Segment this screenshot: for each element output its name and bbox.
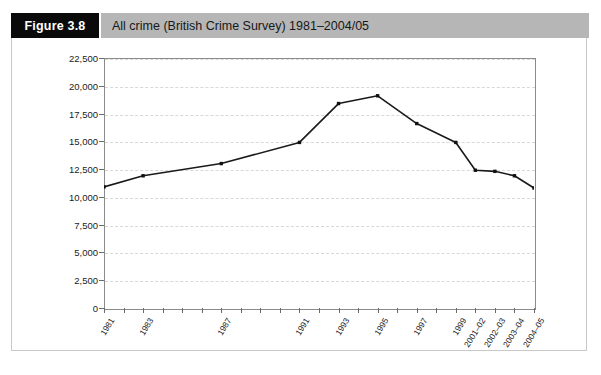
- x-axis-tick-mark: [143, 308, 144, 313]
- x-axis-tick-mark: [163, 308, 164, 313]
- x-axis-tick-mark: [534, 308, 535, 313]
- x-axis-tick-mark: [339, 308, 340, 313]
- x-axis-tick-mark: [378, 308, 379, 313]
- x-axis-tick-mark: [456, 308, 457, 313]
- x-axis-tick-mark: [475, 308, 476, 313]
- y-axis-tick-label: 22,500: [69, 53, 98, 64]
- x-axis-tick-mark: [124, 308, 125, 313]
- data-point-marker: [415, 122, 418, 125]
- data-point-marker: [298, 141, 301, 144]
- crime-trend-line-series: [104, 58, 534, 308]
- x-axis-tick-mark: [280, 308, 281, 313]
- x-axis-tick-mark: [182, 308, 183, 313]
- x-axis-tick-mark: [241, 308, 242, 313]
- figure-header: Figure 3.8 All crime (British Crime Surv…: [11, 13, 589, 38]
- x-axis-tick-mark: [299, 308, 300, 313]
- data-point-marker: [493, 170, 496, 173]
- data-point-marker: [141, 174, 144, 177]
- x-axis-tick-mark: [397, 308, 398, 313]
- y-axis-label-group: 02,5005,0007,50010,00012,50015,00017,500…: [40, 58, 98, 308]
- figure-number-tag: Figure 3.8: [11, 13, 99, 38]
- x-axis-tick-mark: [417, 308, 418, 313]
- data-point-marker: [513, 174, 516, 177]
- figure-container: Figure 3.8 All crime (British Crime Surv…: [0, 0, 601, 375]
- data-point-marker: [474, 169, 477, 172]
- data-point-marker: [454, 141, 457, 144]
- data-point-marker: [532, 186, 534, 189]
- data-point-marker: [337, 102, 340, 105]
- y-axis-tick-label: 2,500: [74, 275, 98, 286]
- x-axis-tick-mark: [221, 308, 222, 313]
- data-point-marker: [220, 162, 223, 165]
- data-point-marker: [376, 94, 379, 97]
- y-axis-tick-label: 20,000: [69, 80, 98, 91]
- x-axis-tick-mark: [319, 308, 320, 313]
- x-axis-tick-mark: [495, 308, 496, 313]
- data-point-marker: [104, 185, 106, 188]
- y-axis-tick-label: 0: [93, 303, 98, 314]
- figure-footnote: [13, 357, 293, 366]
- x-axis-tick-mark: [358, 308, 359, 313]
- figure-title: All crime (British Crime Survey) 1981–20…: [99, 13, 589, 38]
- x-axis-tick-mark: [260, 308, 261, 313]
- y-axis-tick-label: 5,000: [74, 247, 98, 258]
- x-axis-tick-mark: [104, 308, 105, 313]
- y-axis-tick-label: 10,000: [69, 191, 98, 202]
- series-line-path: [104, 96, 534, 188]
- x-axis-tick-mark: [514, 308, 515, 313]
- y-axis-tick-label: 17,500: [69, 108, 98, 119]
- y-axis-tick-label: 12,500: [69, 164, 98, 175]
- x-axis-tick-mark: [202, 308, 203, 313]
- x-axis-tick-mark: [436, 308, 437, 313]
- y-axis-tick-label: 7,500: [74, 219, 98, 230]
- y-axis-tick-label: 15,000: [69, 136, 98, 147]
